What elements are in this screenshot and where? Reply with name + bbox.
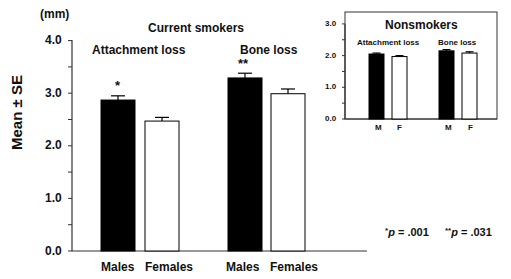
y-axis-label: Mean ± SE bbox=[8, 75, 25, 150]
bar bbox=[228, 78, 262, 251]
inset-x-label-m: M bbox=[375, 123, 382, 132]
inset-x-label-m: M bbox=[445, 123, 452, 132]
inset-title: Nonsmokers bbox=[385, 18, 458, 32]
y-tick-label: 4.0 bbox=[45, 33, 62, 47]
main-plot bbox=[68, 40, 367, 251]
y-tick-label: 3.0 bbox=[45, 86, 62, 100]
inset-group-label-attachment: Attachment loss bbox=[357, 38, 419, 47]
bar bbox=[145, 121, 179, 251]
x-label-females: Females bbox=[145, 260, 193, 274]
bar bbox=[462, 53, 477, 119]
main-title: Current smokers bbox=[148, 21, 244, 35]
x-label-females: Females bbox=[270, 260, 318, 274]
bar bbox=[439, 51, 454, 119]
y-tick-label: 0.0 bbox=[45, 244, 62, 258]
inset-y-tick-label: 1.0 bbox=[325, 82, 336, 91]
x-label-males: Males bbox=[101, 260, 134, 274]
group-label-attachment: Attachment loss bbox=[92, 43, 185, 57]
footnote-p: p bbox=[388, 226, 395, 238]
footnote-value: = .001 bbox=[395, 226, 429, 238]
inset-group-label-bone: Bone loss bbox=[438, 38, 476, 47]
bar bbox=[392, 57, 407, 119]
bar bbox=[101, 100, 135, 251]
bar bbox=[271, 94, 305, 251]
inset-y-tick-label: 0.0 bbox=[325, 114, 336, 123]
group-label-bone: Bone loss bbox=[240, 43, 297, 57]
y-tick-label: 2.0 bbox=[45, 138, 62, 152]
y-tick-label: 1.0 bbox=[45, 191, 62, 205]
inset-x-label-f: F bbox=[397, 123, 402, 132]
inset-y-tick-label: 2.0 bbox=[325, 51, 336, 60]
inset-x-label-f: F bbox=[468, 123, 473, 132]
footnote-p: p bbox=[451, 226, 458, 238]
bar bbox=[369, 54, 384, 119]
significance-star-attachment: * bbox=[115, 78, 120, 93]
x-label-males: Males bbox=[226, 260, 259, 274]
significance-star-bone: ** bbox=[238, 56, 248, 71]
footnote-value: = .031 bbox=[458, 226, 492, 238]
y-unit-label: (mm) bbox=[40, 7, 69, 21]
footnote: *p = .001 **p = .031 bbox=[385, 226, 492, 238]
inset-y-tick-label: 3.0 bbox=[325, 19, 336, 28]
